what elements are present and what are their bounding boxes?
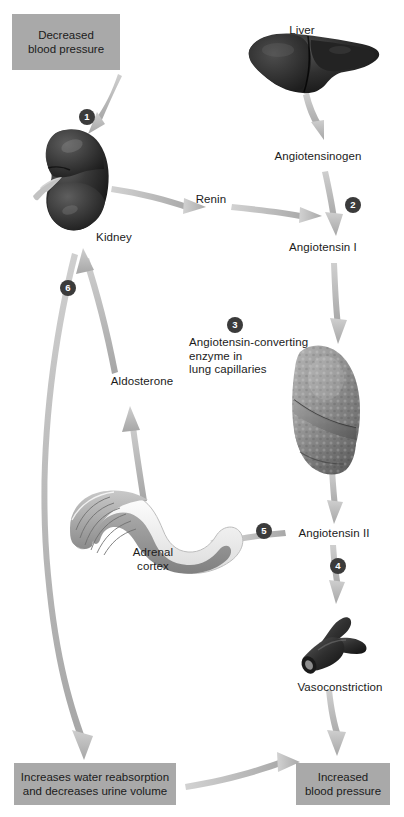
arrow-aldosterone-to-kidney	[76, 248, 118, 374]
badge-step-1[interactable]: 1	[79, 109, 95, 125]
label-adrenal-cortex: Adrenal cortex	[120, 546, 186, 573]
box-increases-water-reabsorption[interactable]: Increases water reabsorption and decreas…	[14, 763, 176, 805]
arrow-angiotensinogen-to-angiotensin-i	[322, 171, 343, 236]
label-angiotensin-i: Angiotensin I	[281, 241, 365, 255]
box-decreased-blood-pressure[interactable]: Decreased blood pressure	[12, 14, 120, 70]
label-ace-lung-capillaries: Angiotensin-converting enzyme in lung ca…	[189, 336, 321, 377]
badge-step-6[interactable]: 6	[60, 280, 76, 296]
badge-step-3[interactable]: 3	[227, 317, 243, 333]
arrow-adrenal-to-aldosterone	[122, 406, 147, 502]
label-liver: Liver	[267, 24, 337, 38]
arrow-lung-to-angiotensin-ii	[327, 470, 343, 524]
arrow-angiotensin-ii-to-vasoconstriction	[329, 545, 345, 604]
box-increased-bp-line1: Increased	[305, 770, 381, 784]
arrow-decreased-bp-to-kidney	[88, 74, 122, 134]
label-adrenal-line2: cortex	[120, 560, 186, 574]
box-water-line2: and decreases urine volume	[21, 784, 169, 798]
diagram-canvas: Decreased blood pressure Increases water…	[0, 0, 404, 817]
label-angiotensinogen: Angiotensinogen	[262, 150, 374, 164]
box-decreased-bp-line2: blood pressure	[28, 42, 104, 56]
label-renin: Renin	[190, 193, 232, 207]
arrow-vasoconstriction-to-increased-bp	[326, 690, 346, 756]
arrow-water-reabsorption-to-increased-bp	[185, 752, 300, 790]
blood-vessel-illustration	[299, 617, 367, 676]
arrow-angiotensin-i-to-lung	[330, 263, 347, 344]
arrow-renin-to-conversion	[231, 204, 322, 223]
liver-illustration	[249, 34, 379, 94]
box-increased-bp-line2: blood pressure	[305, 784, 381, 798]
kidney-illustration	[33, 129, 109, 230]
arrow-liver-to-angiotensinogen	[303, 93, 324, 140]
box-water-line1: Increases water reabsorption	[21, 770, 169, 784]
box-increased-blood-pressure[interactable]: Increased blood pressure	[296, 763, 390, 805]
label-adrenal-line1: Adrenal	[120, 546, 186, 560]
label-ace-line1: Angiotensin-converting	[189, 336, 321, 350]
label-aldosterone: Aldosterone	[102, 375, 182, 389]
label-ace-line3: lung capillaries	[189, 363, 321, 377]
label-ace-line2: enzyme in	[189, 350, 321, 364]
label-kidney: Kidney	[84, 231, 144, 245]
box-decreased-bp-line1: Decreased	[28, 28, 104, 42]
badge-step-5[interactable]: 5	[256, 523, 272, 539]
badge-step-4[interactable]: 4	[330, 558, 346, 574]
label-vasoconstriction: Vasoconstriction	[292, 681, 388, 695]
badge-step-2[interactable]: 2	[345, 197, 361, 213]
label-angiotensin-ii: Angiotensin II	[290, 527, 378, 541]
